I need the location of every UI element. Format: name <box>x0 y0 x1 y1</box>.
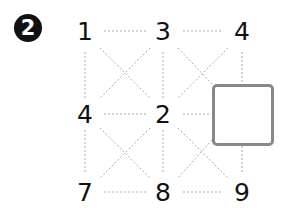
grid-cell-r3-c2: 8 <box>148 180 178 205</box>
grid-cell-r3-c3: 9 <box>227 180 257 205</box>
grid-cell-r2-c1: 4 <box>70 102 100 127</box>
answer-box[interactable] <box>212 84 274 146</box>
grid-cell-r1-c3: 4 <box>227 19 257 44</box>
grid-cell-r2-c2: 2 <box>148 102 178 127</box>
grid-cell-r1-c1: 1 <box>70 19 100 44</box>
grid-cell-r3-c1: 7 <box>70 180 100 205</box>
grid-cell-r1-c2: 3 <box>148 19 178 44</box>
